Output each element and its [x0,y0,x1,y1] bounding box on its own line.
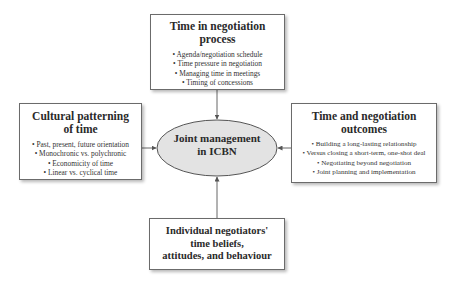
list-item: • Timing of concessions [151,78,284,87]
list-item: • Joint planning and implementation [292,168,436,177]
list-item: • Past, present, future orientation [20,140,141,149]
list-item: • Negotiating beyond negotiation [292,159,436,168]
list-item: • Economicity of time [20,159,141,168]
list-item: • Linear vs. cyclical time [20,168,141,177]
center-label: Joint management in ICBN [157,132,277,158]
box-title: Time in negotiation process [151,20,284,46]
box-individual-negotiators-time-beliefs: Individual negotiators' time beliefs, at… [149,218,285,270]
box-items: • Building a long-lasting relationship •… [292,140,436,177]
center-label-line2: in ICBN [157,145,277,158]
box-items: • Agenda/negotiation schedule • Time pre… [151,50,284,87]
list-item: • Building a long-lasting relationship [292,140,436,149]
box-cultural-patterning-of-time: Cultural patterning of time • Past, pres… [19,103,142,180]
box-title: Cultural patterning of time [20,110,141,136]
list-item: • Monochronic vs. polychronic [20,149,141,158]
box-time-in-negotiation-process: Time in negotiation process • Agenda/neg… [150,14,285,90]
list-item: • Agenda/negotiation schedule [151,50,284,59]
box-title: Individual negotiators' time beliefs, at… [150,225,284,263]
center-label-line1: Joint management [157,132,277,145]
list-item: • Time pressure in negotiation [151,59,284,68]
box-items: • Past, present, future orientation • Mo… [20,140,141,177]
list-item: • Managing time in meetings [151,69,284,78]
box-time-and-negotiation-outcomes: Time and negotiation outcomes • Building… [291,103,437,183]
box-title: Time and negotiation outcomes [292,110,436,136]
list-item: • Versus closing a short-term, one-shot … [292,149,436,158]
